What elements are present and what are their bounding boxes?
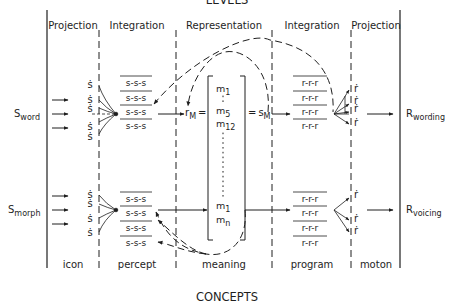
meaning-matrix-brackets [208,76,245,240]
svg-text:m1: m1 [216,83,230,97]
svg-text:ṙ: ṙ [354,103,359,114]
levels-concepts-diagram: LEVELS CONCEPTS Projection Integration R… [0,0,454,308]
svg-text:s-s-s: s-s-s [126,107,147,117]
footer-percept: percept [118,259,156,270]
feedback-arc-lower-percept [158,242,206,254]
svg-text:m1: m1 [216,200,230,214]
input-s-word: Sword [14,108,40,122]
divergence-fan-word [334,90,349,124]
footer-icon: icon [63,259,84,270]
svg-text:mn: mn [216,214,230,228]
svg-text:Smorph: Smorph [8,204,40,218]
convergence-fan-word [92,86,118,134]
input-s-morph: Smorph [8,204,40,218]
svg-text:ṡ: ṡ [87,131,92,142]
percepts-word: s-s-s s-s-s s-s-s s-s-s [120,76,152,131]
svg-text:ṙ: ṙ [354,213,359,224]
svg-text:ṙ: ṙ [354,117,359,128]
svg-text:ṡ: ṡ [87,227,92,238]
footer-moton: moton [360,259,392,270]
motons-word: ṙ ṙ ṙ ṙ [354,83,359,128]
svg-text:s-s-s: s-s-s [126,93,147,103]
header-representation: Representation [186,20,262,31]
svg-text:ṡ: ṡ [87,213,92,224]
header-projection-left: Projection [48,20,97,31]
svg-text:s-s-s: s-s-s [126,238,147,248]
output-r-voicing: Rvoicing [406,204,442,218]
footer-meaning: meaning [202,259,246,270]
svg-text:ṙ: ṙ [354,83,359,94]
svg-text:Rvoicing: Rvoicing [406,204,442,218]
svg-text:s-s-s: s-s-s [126,223,147,233]
programs-word: r-r-r r-r-r r-r-r r-r-r [293,76,327,131]
svg-text:r-r-r: r-r-r [302,121,319,131]
header-projection-right: Projection [351,20,400,31]
svg-text:r-r-r: r-r-r [302,208,319,218]
svg-text:Sword: Sword [14,108,40,122]
title-levels: LEVELS [206,0,249,7]
svg-text:s-s-s: s-s-s [126,78,147,88]
svg-text:r-r-r: r-r-r [302,194,319,204]
convergence-fan-morph [99,195,118,232]
svg-text:=sM: =sM [248,107,271,121]
svg-text:r-r-r: r-r-r [302,78,319,88]
svg-text:m5: m5 [216,105,230,119]
header-integration-left: Integration [109,20,164,31]
meaning-matrix: m1 m5 m12 m1 mn [216,83,235,228]
svg-text:ṙ: ṙ [354,225,359,236]
svg-text:ṡ: ṡ [87,103,92,114]
icons-word: ṡ ṡ ṡ ṡ ṡ [87,79,92,142]
percepts-morph: s-s-s s-s-s s-s-s s-s-s [120,192,152,248]
svg-text:r-r-r: r-r-r [302,93,319,103]
motons-morph: ṙ ṙ ṙ [354,189,359,236]
svg-text:m12: m12 [216,118,235,132]
feedback-arc-matrix-to-percept-morph [156,210,245,255]
divergence-fan-morph [334,198,349,232]
footer-program: program [291,259,334,270]
svg-text:r-r-r: r-r-r [302,107,319,117]
icons-morph: ṡ ṡ ṡ ṡ [87,189,92,238]
svg-text:rM=: rM= [185,107,206,121]
svg-text:s-s-s: s-s-s [126,121,147,131]
output-r-wording: Rwording [406,108,445,122]
title-concepts: CONCEPTS [196,290,258,304]
svg-text:ṡ: ṡ [87,79,92,90]
svg-text:s-s-s: s-s-s [126,208,147,218]
svg-text:s-s-s: s-s-s [126,194,147,204]
programs-morph: r-r-r r-r-r r-r-r r-r-r [293,192,327,248]
s-m-label: =sM [248,107,271,121]
feedback-arc-sm-to-rm [188,52,268,112]
svg-text:r-r-r: r-r-r [302,238,319,248]
r-m-label: rM= [185,107,206,121]
svg-text:ṡ: ṡ [87,198,92,209]
header-integration-right: Integration [284,20,339,31]
svg-text:ṙ: ṙ [354,189,359,200]
svg-text:Rwording: Rwording [406,108,445,122]
svg-text:r-r-r: r-r-r [302,223,319,233]
